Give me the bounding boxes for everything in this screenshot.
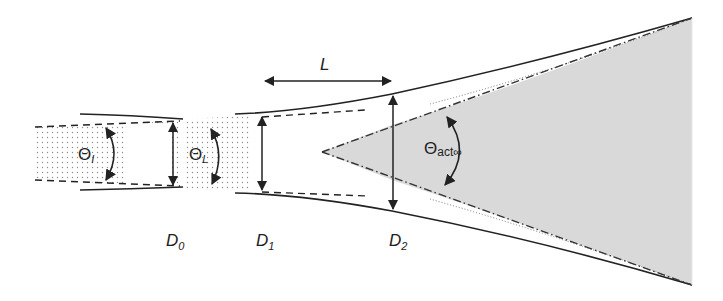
jet-diagram: ΘI ΘL Θact∞ L D0 D1 D2	[0, 0, 723, 301]
spray-cone-fill	[322, 18, 692, 285]
nozzle-wall-bottom-0	[80, 187, 183, 190]
length-label: L	[320, 55, 329, 74]
d0-label: D0	[166, 231, 185, 252]
nozzle-gap-clear	[127, 124, 172, 184]
d1-label: D1	[256, 231, 274, 252]
d2-label: D2	[389, 231, 407, 252]
nozzle-wall-top-0	[80, 114, 183, 119]
